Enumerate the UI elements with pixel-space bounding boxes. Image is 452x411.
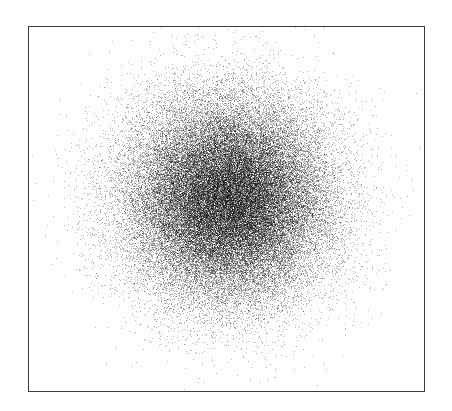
plot-frame [28, 26, 425, 392]
scatter-point-cloud [29, 27, 424, 391]
scatter-figure [0, 0, 452, 411]
